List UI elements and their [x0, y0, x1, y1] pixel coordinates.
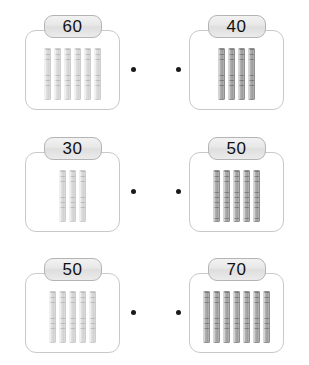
- connector-dot-left[interactable]: [131, 310, 136, 315]
- quantity-card-right[interactable]: 50: [189, 152, 284, 232]
- connector-dot-right[interactable]: [176, 310, 181, 315]
- ten-rod: [238, 48, 245, 100]
- value-badge: 50: [208, 137, 266, 160]
- connector-dot-right[interactable]: [176, 189, 181, 194]
- ten-rod: [253, 170, 260, 222]
- ten-rod: [203, 291, 210, 343]
- ten-rod: [253, 291, 260, 343]
- connector-dot-right[interactable]: [176, 67, 181, 72]
- badge-value: 70: [227, 261, 247, 278]
- ten-rod: [59, 170, 66, 222]
- rod-group: [190, 289, 283, 345]
- ten-rod: [248, 48, 255, 100]
- ten-rod: [263, 291, 270, 343]
- quantity-card-right[interactable]: 40: [189, 30, 284, 110]
- ten-rod: [243, 170, 250, 222]
- rod-group: [26, 168, 119, 224]
- value-badge: 40: [208, 15, 266, 38]
- value-badge: 60: [44, 15, 102, 38]
- ten-rod: [69, 291, 76, 343]
- ten-rod: [213, 170, 220, 222]
- rod-group: [190, 168, 283, 224]
- value-badge: 70: [208, 258, 266, 281]
- ten-rod: [94, 48, 101, 100]
- badge-value: 30: [63, 140, 83, 157]
- ten-rod: [79, 170, 86, 222]
- quantity-card-left[interactable]: 60: [25, 30, 120, 110]
- ten-rod: [69, 170, 76, 222]
- ten-rod: [54, 48, 61, 100]
- ten-rod: [213, 291, 220, 343]
- ten-rod: [233, 291, 240, 343]
- ten-rod: [233, 170, 240, 222]
- ten-rod: [89, 291, 96, 343]
- ten-rod: [74, 48, 81, 100]
- ten-rod: [44, 48, 51, 100]
- badge-value: 40: [227, 18, 247, 35]
- badge-value: 50: [227, 140, 247, 157]
- ten-rod: [49, 291, 56, 343]
- quantity-card-left[interactable]: 30: [25, 152, 120, 232]
- ten-rod: [218, 48, 225, 100]
- quantity-card-right[interactable]: 70: [189, 273, 284, 353]
- match-row: 30 50: [0, 122, 309, 244]
- value-badge: 30: [44, 137, 102, 160]
- value-badge: 50: [44, 258, 102, 281]
- ten-rod: [64, 48, 71, 100]
- ten-rod: [223, 291, 230, 343]
- connector-dot-left[interactable]: [131, 67, 136, 72]
- connector-dot-left[interactable]: [131, 189, 136, 194]
- match-row: 50 70: [0, 243, 309, 365]
- ten-rod: [243, 291, 250, 343]
- badge-value: 50: [63, 261, 83, 278]
- ten-rod: [84, 48, 91, 100]
- matching-worksheet: 60 40: [0, 0, 309, 365]
- rod-group: [26, 46, 119, 102]
- rod-group: [26, 289, 119, 345]
- ten-rod: [228, 48, 235, 100]
- ten-rod: [79, 291, 86, 343]
- quantity-card-left[interactable]: 50: [25, 273, 120, 353]
- ten-rod: [223, 170, 230, 222]
- rod-group: [190, 46, 283, 102]
- ten-rod: [59, 291, 66, 343]
- badge-value: 60: [63, 18, 83, 35]
- match-row: 60 40: [0, 0, 309, 122]
